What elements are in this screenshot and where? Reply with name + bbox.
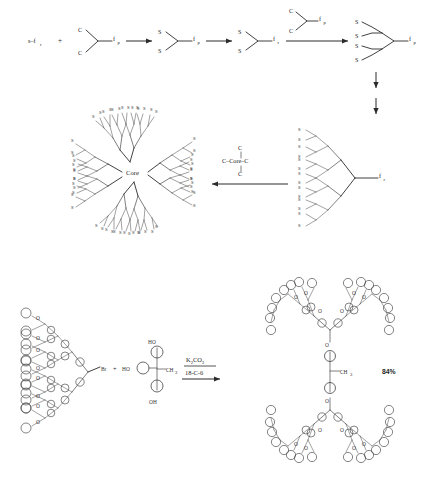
bisphenol-bottom-hydroxyl: OH — [149, 399, 157, 405]
svg-text:S: S — [131, 105, 134, 110]
svg-text:O: O — [318, 308, 322, 314]
svg-text:S: S — [71, 192, 74, 197]
svg-text:S: S — [151, 229, 154, 234]
svg-text:O: O — [340, 427, 344, 433]
monomer-1-carbon-bottom: C — [78, 49, 82, 56]
product-2-stem-subscript: r — [278, 40, 280, 45]
reagent-3-stem: f — [319, 15, 322, 22]
svg-text:S: S — [155, 224, 158, 229]
product-polyether-dendrimer: CH 3 O O — [265, 277, 394, 462]
upper-wing-terminal-rings — [265, 277, 394, 334]
svg-text:S: S — [72, 181, 75, 186]
svg-text:O: O — [294, 294, 298, 300]
bisphenol-top-hydroxyl: HO — [148, 339, 156, 345]
reagent-3-stem-subscript: p — [324, 20, 327, 25]
svg-text:O: O — [36, 365, 40, 371]
product-upper-wing: OO OO OO — [265, 277, 394, 342]
reaction-arrow-2 — [206, 38, 232, 43]
monomer-1-stem: f — [113, 35, 116, 42]
dendrimer-sphere: Core — [71, 105, 196, 236]
svg-text:S: S — [73, 168, 76, 173]
core-coupling-step: C C–Core–C C — [212, 144, 288, 187]
product-unit-2: S S f r — [238, 28, 280, 54]
top-reaction-row: s–f r + C C f p S S f p — [28, 7, 417, 114]
product-center-methyl: CH — [340, 369, 348, 375]
svg-text:S: S — [121, 105, 124, 110]
svg-text:S: S — [143, 106, 146, 111]
reagent-unit-3: C C f p — [289, 7, 327, 34]
svg-text:O: O — [304, 290, 308, 296]
svg-text:S: S — [111, 229, 114, 234]
dendron-terminal-sulfurs: SS SS SS SS SS SS SS — [298, 127, 301, 228]
svg-text:S: S — [190, 157, 193, 162]
yield-label: 84% — [382, 368, 396, 375]
product-unit-3: S S S S f p — [355, 18, 417, 63]
svg-text:S: S — [136, 105, 139, 110]
bisphenol-methyl-subscript: 3 — [175, 370, 178, 375]
svg-text:O: O — [340, 308, 344, 314]
svg-text:S: S — [99, 110, 102, 115]
product-1-stem-subscript: p — [198, 40, 201, 45]
reagent-crown-ether: 18-C-6 — [185, 369, 203, 376]
dendron-stem-subscript: r — [384, 177, 386, 182]
svg-text:S: S — [298, 144, 301, 149]
svg-text:O: O — [304, 445, 308, 451]
svg-text:S: S — [92, 114, 95, 119]
svg-text:O: O — [36, 403, 40, 409]
bottom-reaction-arrow — [182, 376, 220, 381]
svg-text:O: O — [362, 441, 366, 447]
dendrimer-core-label: Core — [126, 169, 139, 176]
svg-text:S: S — [127, 105, 130, 110]
svg-text:S: S — [101, 226, 104, 231]
product-lower-wing: OO OO OO — [265, 398, 394, 463]
dendron-sulfide: f r SS SS SS SS SS SS — [298, 127, 386, 228]
core-reagent-bottom: C — [238, 170, 242, 177]
svg-text:S: S — [150, 107, 153, 112]
product-top-oxygen: O — [325, 342, 329, 348]
svg-text:S: S — [193, 190, 196, 195]
bisphenol-methyl: CH — [166, 367, 174, 373]
svg-text:O: O — [36, 419, 40, 425]
product-3-stem: f — [409, 35, 412, 42]
bottom-reaction-row: Br — [21, 277, 396, 462]
svg-text:O: O — [36, 347, 40, 353]
svg-text:O: O — [362, 294, 366, 300]
product-1-stem: f — [193, 35, 196, 42]
core-reagent-top: C — [238, 144, 242, 151]
svg-text:S: S — [95, 223, 98, 228]
svg-text:S: S — [123, 230, 126, 235]
svg-text:S: S — [193, 203, 196, 208]
svg-text:S: S — [144, 229, 147, 234]
svg-text:S: S — [191, 180, 194, 185]
iteration-arrows — [373, 72, 378, 114]
reagent-3-carbon-top: C — [289, 7, 293, 14]
product-unit-1: S S f p — [158, 28, 201, 54]
svg-text:O: O — [36, 393, 40, 399]
bisphenol-left-hydroxyl: HO — [122, 366, 130, 372]
plus-sign-2: + — [113, 365, 117, 372]
svg-text:O: O — [352, 290, 356, 296]
dendron-ether-oxygens: OO OO OO OO — [36, 315, 40, 425]
product-3-sulfur-1: S — [355, 18, 359, 25]
svg-text:S: S — [128, 231, 131, 236]
reaction-arrow-1 — [126, 38, 152, 43]
core-reaction-arrow — [212, 181, 288, 186]
svg-text:S: S — [298, 197, 301, 202]
svg-text:S: S — [298, 127, 301, 132]
svg-text:S: S — [155, 109, 158, 114]
product-center-methyl-subscript: 3 — [350, 372, 353, 377]
reaction-arrow-3 — [286, 38, 348, 43]
monomer-1-stem-subscript: p — [118, 40, 121, 45]
svg-text:S: S — [298, 137, 301, 142]
lower-wing-oxygens: OO OO OO — [294, 427, 366, 451]
reactant-thiol: s–f r — [28, 37, 42, 47]
svg-text:S: S — [73, 158, 76, 163]
reactant-thiol-subscript: r — [40, 42, 42, 47]
svg-text:S: S — [109, 107, 112, 112]
product-1-sulfur-top: S — [158, 28, 162, 35]
svg-text:S: S — [132, 230, 135, 235]
product-1-sulfur-bottom: S — [158, 47, 162, 54]
coupling-reagent-arrow: K2CO3 18-C-6 — [182, 356, 220, 382]
svg-text:S: S — [298, 171, 301, 176]
lower-wing-terminal-rings — [265, 405, 394, 462]
